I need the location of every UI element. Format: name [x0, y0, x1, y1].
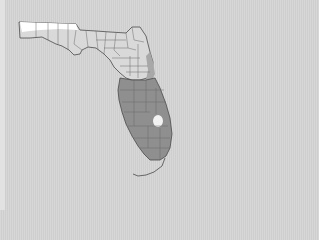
florida-map — [0, 0, 192, 210]
lake-okeechobee — [153, 115, 163, 127]
florida-keys — [133, 158, 165, 176]
region-north-central — [19, 22, 153, 80]
region-south-florida — [118, 78, 172, 160]
